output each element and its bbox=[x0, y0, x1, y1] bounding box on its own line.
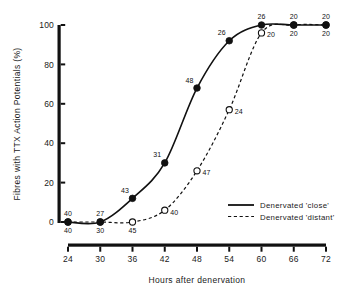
data-point-label: 40 bbox=[170, 209, 178, 216]
data-point-filled bbox=[161, 160, 168, 167]
y-tick-label: 40 bbox=[44, 138, 54, 148]
x-axis-title: Hours after denervation bbox=[149, 275, 246, 285]
data-point-label: 30 bbox=[96, 227, 104, 234]
y-tick-mark bbox=[61, 103, 65, 105]
x-tick-mark bbox=[196, 247, 198, 252]
data-point-label: 45 bbox=[129, 227, 137, 234]
y-tick-label: 100 bbox=[39, 20, 54, 30]
y-tick-mark bbox=[61, 182, 65, 184]
data-point-filled bbox=[97, 219, 104, 226]
x-tick-mark bbox=[261, 247, 263, 252]
data-point-label: 27 bbox=[96, 210, 104, 217]
y-axis-tick-labels: 020406080100 bbox=[39, 20, 54, 227]
data-point-label: 43 bbox=[121, 187, 129, 194]
data-point-filled bbox=[323, 22, 330, 29]
data-point-label: 20 bbox=[322, 13, 330, 20]
y-axis-ticks bbox=[61, 24, 65, 223]
data-point-label: 26 bbox=[218, 29, 226, 36]
x-tick-mark bbox=[99, 247, 101, 252]
x-tick-mark bbox=[132, 247, 134, 252]
chart-legend: Denervated 'close'Denervated 'distant' bbox=[228, 201, 335, 222]
y-tick-label: 0 bbox=[49, 217, 54, 227]
y-axis: 020406080100 Fibres with TTX Action Pote… bbox=[12, 20, 65, 227]
y-tick-label: 20 bbox=[44, 178, 54, 188]
legend-label: Denervated 'close' bbox=[260, 201, 329, 210]
series-distant bbox=[65, 22, 329, 225]
x-tick-mark bbox=[228, 247, 230, 252]
x-tick-label: 42 bbox=[160, 254, 170, 264]
x-tick-label: 54 bbox=[224, 254, 234, 264]
data-point-open bbox=[162, 207, 168, 213]
y-tick-label: 60 bbox=[44, 99, 54, 109]
data-point-filled bbox=[226, 37, 233, 44]
x-tick-mark bbox=[293, 247, 295, 252]
x-tick-label: 60 bbox=[257, 254, 267, 264]
data-point-filled bbox=[258, 22, 265, 29]
data-point-open bbox=[226, 107, 232, 113]
x-tick-label: 36 bbox=[128, 254, 138, 264]
y-tick-mark bbox=[61, 142, 65, 144]
data-point-label: 20 bbox=[290, 13, 298, 20]
x-tick-label: 72 bbox=[321, 254, 331, 264]
data-point-label: 26 bbox=[258, 13, 266, 20]
data-series-layer bbox=[65, 22, 330, 226]
y-tick-mark bbox=[61, 24, 65, 26]
data-point-label: 24 bbox=[235, 108, 243, 115]
data-point-label: 48 bbox=[186, 77, 194, 84]
x-tick-mark bbox=[164, 247, 166, 252]
x-tick-mark bbox=[325, 247, 327, 252]
y-axis-title: Fibres with TTX Action Potentials (%) bbox=[12, 47, 22, 200]
data-point-label: 20 bbox=[267, 31, 275, 38]
x-axis: 243036424854606672 Hours after denervati… bbox=[63, 244, 331, 286]
data-point-filled bbox=[290, 22, 297, 29]
data-point-open bbox=[194, 168, 200, 174]
data-point-label: 47 bbox=[203, 169, 211, 176]
y-tick-label: 80 bbox=[44, 60, 54, 70]
x-tick-label: 24 bbox=[63, 254, 73, 264]
data-point-filled bbox=[65, 219, 72, 226]
data-point-label: 31 bbox=[153, 151, 161, 158]
data-point-label: 40 bbox=[64, 227, 72, 234]
y-tick-mark bbox=[61, 63, 65, 65]
x-tick-label: 30 bbox=[95, 254, 105, 264]
data-point-open bbox=[129, 219, 135, 225]
data-point-label: 20 bbox=[322, 30, 330, 37]
data-point-open bbox=[258, 30, 264, 36]
x-tick-label: 66 bbox=[289, 254, 299, 264]
x-tick-mark bbox=[67, 247, 69, 252]
x-tick-label: 48 bbox=[192, 254, 202, 264]
series-line bbox=[68, 24, 326, 223]
legend-label: Denervated 'distant' bbox=[260, 213, 335, 222]
data-point-label: 20 bbox=[290, 30, 298, 37]
x-axis-tick-labels: 243036424854606672 bbox=[63, 254, 331, 264]
data-point-filled bbox=[194, 85, 201, 92]
series-line bbox=[68, 24, 326, 224]
series-close bbox=[65, 22, 330, 226]
line-chart: 020406080100 Fibres with TTX Action Pote… bbox=[0, 0, 362, 289]
x-axis-ticks bbox=[67, 247, 327, 252]
data-point-filled bbox=[129, 195, 136, 202]
data-point-label: 40 bbox=[64, 210, 72, 217]
chart-figure: 020406080100 Fibres with TTX Action Pote… bbox=[0, 0, 362, 289]
